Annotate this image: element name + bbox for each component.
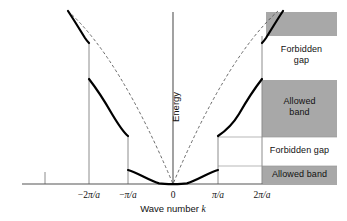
band-structure-figure: Forbidden gap Allowed band Forbidden gap… <box>0 0 347 221</box>
forbidden-gap-upper-label: Forbidden gap <box>266 44 337 66</box>
tick-label-zero: 0 <box>153 190 193 200</box>
band-curve-3-left <box>68 11 89 43</box>
band-curve-2-right <box>218 79 262 136</box>
allowed-band-lower-label: Allowed band <box>262 169 337 180</box>
tick-label-minus-pi-a: −π/a <box>106 190 150 200</box>
allowed-band-middle-label: Allowed band <box>262 96 337 118</box>
forbidden-gap-lower-label: Forbidden gap <box>262 145 337 156</box>
tick-label-2pi-a: 2π/a <box>240 190 284 200</box>
wave-number-axis-label: Wave number k <box>113 203 233 214</box>
band-block-top-allowed <box>266 12 337 36</box>
tick-label-pi-a: π/a <box>198 190 238 200</box>
energy-axis-label: Energy <box>170 92 181 122</box>
band-curve-2-left <box>89 79 128 136</box>
